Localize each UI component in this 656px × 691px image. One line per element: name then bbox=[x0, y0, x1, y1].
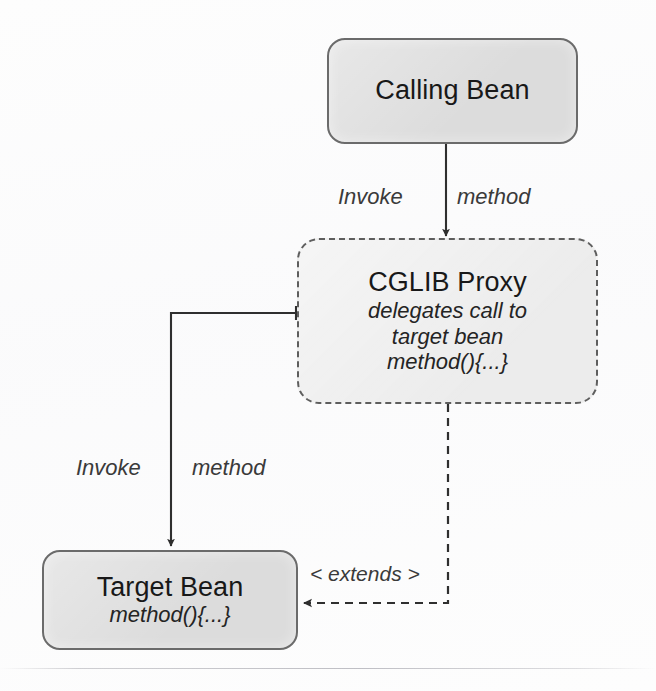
scan-line-artifact bbox=[0, 668, 656, 669]
node-cglib-proxy: CGLIB Proxy delegates call to target bea… bbox=[297, 238, 598, 404]
node-target-bean-title: Target Bean bbox=[97, 573, 244, 602]
node-cglib-proxy-subtitle-line-2: target bean bbox=[392, 324, 503, 349]
diagram-canvas: Calling Bean CGLIB Proxy delegates call … bbox=[0, 0, 656, 691]
edge-label-calling-to-proxy-right: method bbox=[457, 186, 530, 208]
edge-label-calling-to-proxy-left: Invoke bbox=[338, 186, 403, 208]
node-calling-bean: Calling Bean bbox=[327, 38, 578, 144]
node-cglib-proxy-subtitle-line-3: method(){...} bbox=[387, 349, 508, 374]
edge-label-proxy-to-target-left: Invoke bbox=[76, 457, 141, 479]
node-cglib-proxy-title: CGLIB Proxy bbox=[368, 268, 527, 297]
edge-label-proxy-to-target-right: method bbox=[192, 457, 265, 479]
edge-proxy-to-target bbox=[171, 306, 296, 546]
node-target-bean-subtitle-line-1: method(){...} bbox=[109, 602, 230, 627]
node-target-bean: Target Bean method(){...} bbox=[42, 550, 298, 650]
node-cglib-proxy-subtitle-line-1: delegates call to bbox=[368, 298, 527, 323]
node-calling-bean-title: Calling Bean bbox=[375, 76, 529, 105]
edge-label-extends: < extends > bbox=[310, 563, 420, 584]
